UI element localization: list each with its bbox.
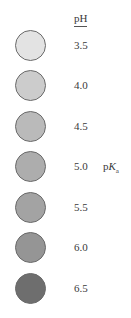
color-swatch-circle	[15, 192, 46, 223]
indicator-row-5-5: 5.5	[0, 192, 131, 226]
indicator-row-4-5: 4.5	[0, 111, 131, 145]
color-swatch-circle	[15, 111, 46, 142]
ph-value: 5.0	[74, 160, 88, 173]
color-swatch-circle	[15, 30, 46, 61]
indicator-row-6-5: 6.5	[0, 273, 131, 307]
color-swatch-circle	[15, 232, 46, 263]
indicator-row-3-5: 3.5	[0, 30, 131, 64]
ph-value: 6.5	[74, 282, 88, 295]
pka-label: pKa	[103, 160, 119, 178]
ph-value: 3.5	[74, 39, 88, 52]
color-swatch-circle	[15, 273, 46, 304]
ph-value: 5.5	[74, 201, 88, 214]
ph-value: 6.0	[74, 241, 88, 254]
indicator-row-4-0: 4.0	[0, 70, 131, 104]
ph-column-header: pH	[74, 12, 87, 27]
indicator-row-6-0: 6.0	[0, 232, 131, 266]
color-swatch-circle	[15, 70, 46, 101]
indicator-row-5-0: 5.0 pKa	[0, 151, 131, 185]
ph-value: 4.0	[74, 79, 88, 92]
color-swatch-circle	[15, 151, 46, 182]
ph-value: 4.5	[74, 120, 88, 133]
